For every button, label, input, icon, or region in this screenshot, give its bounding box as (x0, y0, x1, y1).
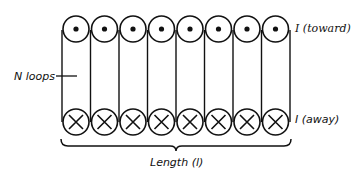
length-brace (61, 139, 291, 151)
n-loops-label: N loops (14, 70, 55, 83)
vertical-wires (62, 30, 290, 122)
current-away-label: I (away) (295, 113, 339, 126)
current-toward-label: I (toward) (294, 22, 351, 35)
length-label: Length (l) (150, 156, 203, 169)
solenoid-diagram: I (toward) I (away) N loops Length (l) (0, 0, 356, 175)
